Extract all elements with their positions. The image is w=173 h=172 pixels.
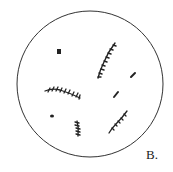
- figure-label: B.: [146, 147, 158, 163]
- specimen-dot: [50, 115, 54, 118]
- specimen-chain-lower-right: [109, 111, 127, 133]
- specimen-chain-horizontal: [45, 87, 80, 99]
- specimen-blob: [57, 49, 61, 54]
- specimen-chain-vertical: [75, 121, 80, 136]
- field-of-view-circle: [17, 11, 163, 157]
- specimen-chain-diagonal: [98, 43, 116, 78]
- specimen-dash: [114, 92, 118, 97]
- specimen-dash: [131, 73, 135, 77]
